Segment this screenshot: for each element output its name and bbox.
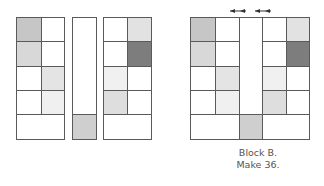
patch — [127, 17, 152, 42]
bottom-rectangle — [16, 114, 65, 140]
patch — [190, 66, 216, 91]
patch — [215, 17, 240, 42]
bottom-rectangle — [190, 114, 240, 140]
patch — [16, 41, 42, 67]
patch — [41, 66, 65, 91]
press-right-arrow-icon — [253, 7, 273, 15]
patch — [190, 41, 216, 67]
patch — [127, 90, 152, 115]
strip-long — [72, 17, 97, 115]
caption-line-2: Make 36. — [222, 159, 294, 171]
patch — [215, 66, 240, 91]
patch — [16, 17, 42, 42]
patch — [262, 66, 287, 91]
patch — [41, 17, 65, 42]
patch — [215, 41, 240, 67]
patch — [103, 41, 128, 67]
patch — [286, 90, 310, 115]
patch — [262, 41, 287, 67]
press-left-arrow-icon — [228, 7, 248, 15]
patch — [286, 41, 310, 67]
patch — [103, 66, 128, 91]
strip-long — [239, 17, 263, 115]
bottom-rectangle — [103, 114, 152, 140]
patch — [16, 90, 42, 115]
caption-line-1: Block B. — [222, 147, 294, 159]
patch — [190, 17, 216, 42]
patch — [190, 90, 216, 115]
patch — [103, 90, 128, 115]
patch — [41, 41, 65, 67]
block-caption: Block B. Make 36. — [222, 147, 294, 171]
patch — [262, 17, 287, 42]
patch — [286, 17, 310, 42]
patch — [41, 90, 65, 115]
patch — [286, 66, 310, 91]
patch — [103, 17, 128, 42]
patch — [127, 41, 152, 67]
bottom-square — [239, 114, 263, 140]
strip-square — [72, 114, 97, 140]
patch — [215, 90, 240, 115]
patch — [16, 66, 42, 91]
patch — [262, 90, 287, 115]
patch — [127, 66, 152, 91]
bottom-rectangle — [262, 114, 310, 140]
